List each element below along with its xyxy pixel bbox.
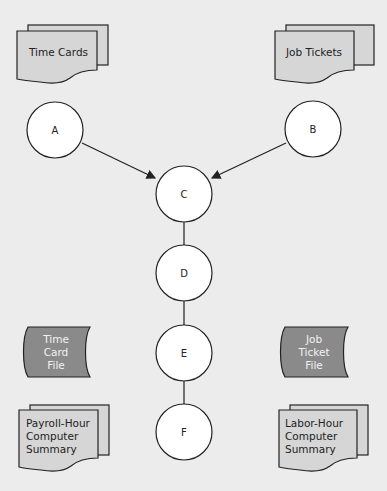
svg-text:Card: Card xyxy=(44,346,69,358)
document-job-tickets: Job Tickets xyxy=(275,25,374,83)
document-payroll-hour-summary: Payroll-Hour Computer Summary xyxy=(19,405,109,471)
file-job-ticket: Job Ticket File xyxy=(281,327,349,377)
svg-text:Computer: Computer xyxy=(285,430,338,442)
node-a: A xyxy=(27,102,83,158)
node-d: D xyxy=(156,245,212,301)
svg-text:Ticket: Ticket xyxy=(297,346,329,358)
document-label: Job Tickets xyxy=(285,46,342,58)
svg-text:F: F xyxy=(181,427,187,438)
svg-text:File: File xyxy=(47,359,65,371)
svg-text:Payroll-Hour: Payroll-Hour xyxy=(26,417,91,429)
svg-text:E: E xyxy=(181,348,187,359)
svg-text:Summary: Summary xyxy=(26,443,77,455)
flowchart-diagram: Time Cards Job Tickets A B C D E F Time … xyxy=(0,0,387,491)
node-b: B xyxy=(285,101,341,157)
node-e: E xyxy=(156,325,212,381)
svg-text:A: A xyxy=(52,125,59,136)
edge-b-c xyxy=(212,143,286,178)
svg-text:Labor-Hour: Labor-Hour xyxy=(285,417,344,429)
svg-text:Job: Job xyxy=(305,333,323,345)
document-label: Time Cards xyxy=(28,46,88,58)
svg-text:Summary: Summary xyxy=(285,443,336,455)
edge-a-c xyxy=(82,143,155,178)
svg-text:Time: Time xyxy=(42,333,69,345)
svg-text:File: File xyxy=(305,359,323,371)
svg-text:Computer: Computer xyxy=(26,430,79,442)
file-time-card: Time Card File xyxy=(24,327,91,377)
document-time-cards: Time Cards xyxy=(17,25,108,83)
document-labor-hour-summary: Labor-Hour Computer Summary xyxy=(279,405,368,471)
node-c: C xyxy=(156,166,212,222)
svg-text:D: D xyxy=(180,268,188,279)
svg-text:B: B xyxy=(310,124,317,135)
node-f: F xyxy=(156,404,212,460)
svg-text:C: C xyxy=(181,189,188,200)
